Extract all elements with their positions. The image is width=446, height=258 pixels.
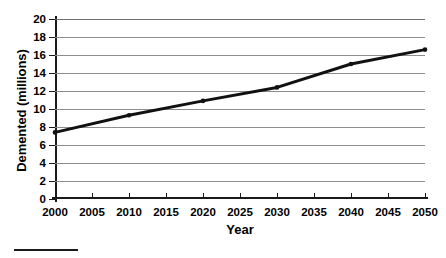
y-tick-label: 20 xyxy=(33,13,46,25)
x-tick-label: 2035 xyxy=(301,206,327,218)
footnote-rule xyxy=(14,249,78,251)
y-tick-label: 2 xyxy=(40,175,46,187)
x-tick-label: 2020 xyxy=(190,206,216,218)
plot-area: 02468101214161820 2000200520102015202020… xyxy=(55,19,425,199)
y-axis-title: Demented (millions) xyxy=(14,16,29,206)
x-tick-label: 2030 xyxy=(264,206,290,218)
data-point-marker xyxy=(127,113,132,118)
data-point-marker xyxy=(349,62,354,67)
x-tick-label: 2050 xyxy=(412,206,438,218)
x-tick-label: 2040 xyxy=(338,206,364,218)
data-point-marker xyxy=(53,130,58,135)
x-tick-label: 2000 xyxy=(42,206,68,218)
x-tick xyxy=(425,193,426,199)
y-tick-label: 4 xyxy=(40,157,46,169)
figure-line-chart: Demented (millions) 02468101214161820 20… xyxy=(0,0,446,258)
y-tick-label: 16 xyxy=(33,49,46,61)
data-series-line xyxy=(55,19,425,199)
data-point-marker xyxy=(423,47,428,52)
data-point-marker xyxy=(275,85,280,90)
y-tick-label: 8 xyxy=(40,121,46,133)
y-tick-label: 14 xyxy=(33,67,46,79)
y-tick-label: 6 xyxy=(40,139,46,151)
x-tick-label: 2025 xyxy=(227,206,253,218)
data-point-marker xyxy=(201,99,206,104)
y-tick-label: 12 xyxy=(33,85,46,97)
x-axis-title: Year xyxy=(55,222,425,237)
y-tick xyxy=(49,199,55,200)
y-tick-label: 18 xyxy=(33,31,46,43)
x-tick-label: 2015 xyxy=(153,206,179,218)
x-tick-label: 2005 xyxy=(79,206,105,218)
x-tick-label: 2010 xyxy=(116,206,142,218)
x-tick-label: 2045 xyxy=(375,206,401,218)
y-tick-label: 0 xyxy=(40,193,46,205)
y-tick-label: 10 xyxy=(33,103,46,115)
